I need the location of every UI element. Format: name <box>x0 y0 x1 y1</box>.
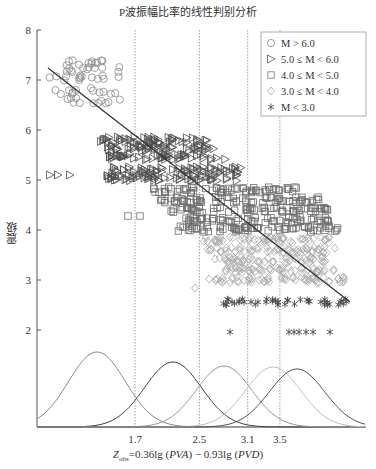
marker-square <box>161 197 167 203</box>
marker-asterisk <box>296 329 302 336</box>
y-tick-label: 6 <box>26 124 32 136</box>
marker-circle <box>116 64 123 71</box>
x-tick-label: 1.7 <box>128 433 142 445</box>
marker-circle <box>96 89 103 96</box>
marker-square <box>217 224 223 230</box>
density-curve <box>37 362 365 427</box>
marker-asterisk <box>227 329 233 336</box>
marker-triangle <box>186 147 194 155</box>
x-tick-label: 3.1 <box>241 433 255 445</box>
y-tick-label: 2 <box>26 324 32 336</box>
density-curve <box>37 367 365 427</box>
marker-triangle <box>67 171 75 179</box>
marker-circle <box>57 90 64 97</box>
marker-triangle <box>188 154 196 162</box>
marker-circle <box>52 87 59 94</box>
density-curve <box>37 366 365 427</box>
marker-asterisk <box>327 329 333 336</box>
marker-square <box>168 186 174 192</box>
marker-circle <box>99 64 106 71</box>
marker-triangle <box>210 145 218 153</box>
marker-circle <box>102 100 109 107</box>
marker-triangle <box>55 171 63 179</box>
marker-square <box>233 218 239 224</box>
marker-diamond <box>192 284 199 292</box>
marker-asterisk <box>310 329 316 336</box>
marker-square <box>137 213 143 219</box>
marker-circle <box>112 90 119 97</box>
marker-asterisk <box>303 329 309 336</box>
y-tick-label: 3 <box>26 274 32 286</box>
y-tick-label: 4 <box>26 224 32 236</box>
y-tick-label: 7 <box>26 74 32 86</box>
marker-square <box>284 204 290 210</box>
x-tick-label: 3.5 <box>273 433 287 445</box>
marker-circle <box>84 66 91 73</box>
density-curve <box>37 369 365 427</box>
marker-triangle <box>222 155 230 163</box>
legend-label: 4.0 ≤ M < 5.0 <box>281 70 339 81</box>
marker-square <box>251 207 257 213</box>
marker-square <box>209 187 215 193</box>
marker-asterisk <box>286 329 292 336</box>
marker-circle <box>116 96 123 103</box>
legend-label: M < 3.0 <box>281 102 315 113</box>
legend-label: 3.0 ≤ M < 4.0 <box>281 86 339 97</box>
marker-circle <box>115 73 122 80</box>
marker-asterisk <box>318 298 324 305</box>
plot-area: 23456781.72.53.13.5M > 6.05.0 ≤ M < 6.04… <box>0 0 376 469</box>
marker-diamond <box>206 275 213 283</box>
marker-triangle <box>47 171 55 179</box>
y-tick-label: 8 <box>26 24 32 36</box>
marker-asterisk <box>297 296 303 303</box>
x-tick-label: 2.5 <box>193 433 207 445</box>
legend-label: 5.0 ≤ M < 6.0 <box>281 54 339 65</box>
density-curve <box>37 352 365 427</box>
marker-asterisk <box>291 329 297 336</box>
marker-asterisk <box>291 300 297 307</box>
marker-square <box>125 213 131 219</box>
marker-asterisk <box>248 299 254 306</box>
marker-diamond <box>331 244 338 252</box>
legend-label: M > 6.0 <box>281 38 315 49</box>
y-tick-label: 5 <box>26 174 32 186</box>
marker-square <box>175 228 181 234</box>
marker-circle <box>46 74 53 81</box>
